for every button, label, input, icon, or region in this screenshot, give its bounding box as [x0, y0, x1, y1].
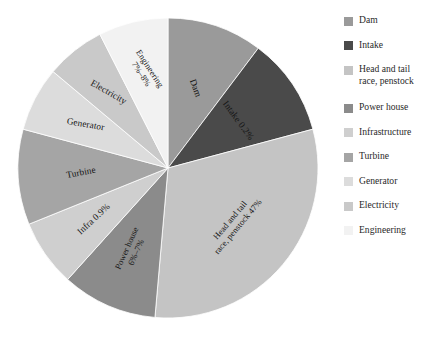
legend-swatch-icon	[344, 41, 353, 50]
legend-item-turbine[interactable]: Turbine	[344, 150, 440, 162]
legend-label: Intake	[359, 39, 383, 51]
legend-item-electricity[interactable]: Electricity	[344, 199, 440, 211]
legend-label: Turbine	[359, 150, 389, 162]
legend-swatch-icon	[344, 177, 353, 186]
legend-item-engineering[interactable]: Engineering	[344, 224, 440, 236]
legend-label: Generator	[359, 175, 397, 187]
legend-item-intake[interactable]: Intake	[344, 39, 440, 51]
pie-chart-svg: DamIntake 0.2%Head and tailrace, penstoc…	[16, 16, 320, 320]
legend-swatch-icon	[344, 66, 353, 75]
legend-label: Head and tail race, penstock	[359, 63, 414, 86]
chart-legend: DamIntakeHead and tail race, penstockPow…	[344, 14, 440, 248]
pie-slice-group	[18, 18, 318, 318]
legend-label: Dam	[359, 14, 378, 26]
pie-chart-figure: DamIntake 0.2%Head and tailrace, penstoc…	[0, 0, 442, 339]
legend-swatch-icon	[344, 202, 353, 211]
legend-item-power-house[interactable]: Power house	[344, 101, 440, 113]
legend-label: Power house	[359, 101, 408, 113]
legend-item-generator[interactable]: Generator	[344, 175, 440, 187]
legend-swatch-icon	[344, 226, 353, 235]
legend-label: Infrastructure	[359, 126, 411, 138]
legend-item-infrastructure[interactable]: Infrastructure	[344, 126, 440, 138]
pie-chart-plot-area: DamIntake 0.2%Head and tailrace, penstoc…	[16, 16, 320, 320]
legend-swatch-icon	[344, 17, 353, 26]
legend-swatch-icon	[344, 153, 353, 162]
legend-swatch-icon	[344, 104, 353, 113]
legend-swatch-icon	[344, 128, 353, 137]
legend-item-head-and-tail-race-penstock[interactable]: Head and tail race, penstock	[344, 63, 440, 86]
legend-label: Electricity	[359, 199, 399, 211]
legend-label: Engineering	[359, 224, 406, 236]
legend-item-dam[interactable]: Dam	[344, 14, 440, 26]
